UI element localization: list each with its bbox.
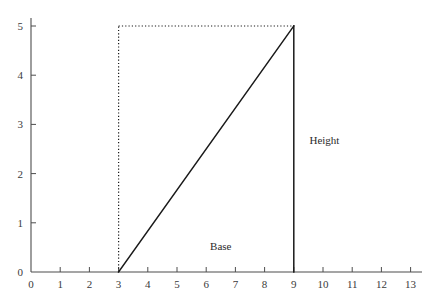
x-tick-label: 9	[291, 278, 297, 290]
x-tick-label: 6	[203, 278, 209, 290]
triangle-base-height-figure: 012345678910111213 012345 BaseHeight	[0, 0, 427, 305]
x-tick-label: 0	[28, 278, 34, 290]
x-tick-label: 2	[87, 278, 93, 290]
x-tick-label: 5	[174, 278, 180, 290]
x-tick-label: 10	[318, 278, 330, 290]
x-tick-label: 8	[262, 278, 268, 290]
y-tick-label: 1	[18, 217, 24, 229]
x-tick-label: 11	[347, 278, 358, 290]
x-tick-label: 12	[376, 278, 387, 290]
y-tick-label: 5	[18, 20, 24, 32]
y-tick-label: 2	[18, 168, 24, 180]
x-tick-label: 7	[233, 278, 239, 290]
annotation-label-height: Height	[309, 134, 339, 146]
plot-canvas: 012345678910111213 012345 BaseHeight	[0, 0, 427, 305]
x-tick-label: 3	[116, 278, 122, 290]
x-tick-label: 4	[145, 278, 151, 290]
annotation-label-base: Base	[210, 240, 232, 252]
x-tick-label: 1	[57, 278, 63, 290]
plot-background	[0, 0, 427, 305]
y-tick-label: 3	[18, 118, 24, 130]
x-tick-label: 13	[405, 278, 417, 290]
y-tick-label: 4	[18, 69, 24, 81]
y-tick-label: 0	[18, 266, 24, 278]
